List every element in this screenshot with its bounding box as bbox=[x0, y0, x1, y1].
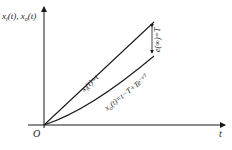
ramp-response-diagram: xi(t), xo(t) O t xi(t)=t xo(t)=t−T+Te−t/… bbox=[0, 0, 232, 150]
steady-state-error-label: e(∞)=T bbox=[153, 27, 162, 52]
input-ramp-line bbox=[44, 22, 154, 125]
origin-label: O bbox=[33, 128, 40, 139]
input-ramp-label: xi(t)=t bbox=[78, 72, 101, 94]
output-response-curve bbox=[44, 56, 154, 125]
y-axis-label: xi(t), xo(t) bbox=[1, 11, 36, 22]
x-axis-label: t bbox=[219, 128, 222, 139]
